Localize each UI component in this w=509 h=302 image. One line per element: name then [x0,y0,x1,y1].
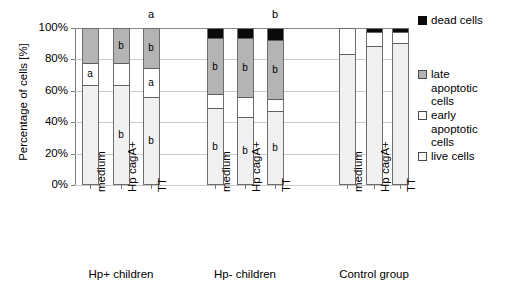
bar-segment-late [83,29,98,63]
legend-item-live[interactable]: live cells [418,150,474,164]
bar-segment-early [114,63,129,85]
x-tick-label-3: medium [220,151,232,192]
x-tick-label-2: TT [156,178,168,192]
legend-swatch-late-icon [418,70,427,79]
y-tick-label-20: 20% [32,148,68,160]
y-axis-title: Percentage of cells [%] [17,17,29,187]
legend-label-live: live cells [431,150,474,164]
x-tick-mark-6 [347,185,348,189]
x-tick-label-7: Hp cagA+ [379,141,391,192]
bar-segment-early [208,94,223,108]
group-label-2: Control group [319,268,429,280]
legend-label-early: earlyapoptoticcells [431,109,478,150]
segment-annotation: b [114,130,129,140]
legend-swatch-dead-icon [418,16,427,25]
x-tick-label-8: TT [405,178,417,192]
x-tick-mark-3 [215,185,216,189]
bar-segment-early [238,97,253,117]
y-tick-label-0: 0% [32,179,68,191]
segment-annotation: b [144,43,159,53]
segment-annotation: b [144,136,159,146]
legend-swatch-live-icon [418,152,427,161]
bar-segment-late: b [268,40,283,99]
bar-2-tt[interactable]: bab [143,28,160,185]
bar-segment-live: b [268,111,283,184]
legend-item-dead[interactable]: dead cells [418,14,483,28]
bar-segment-dead [208,29,223,38]
x-tick-label-1: Hp cagA+ [126,141,138,192]
bar-segment-late: b [238,38,253,97]
segment-annotation: b [208,142,223,152]
segment-annotation: b [208,62,223,72]
x-tick-mark-0 [90,185,91,189]
bar-segment-live: b [144,97,159,184]
bar-top-annotation-2: a [143,8,160,20]
bar-segment-early [268,99,283,111]
bar-segment-late: b [114,29,129,63]
x-tick-mark-8 [400,185,401,189]
legend-label-late: lateapoptoticcells [431,68,478,109]
legend-item-late[interactable]: lateapoptoticcells [418,68,478,109]
bar-segment-early [340,29,355,54]
bar-segment-early: a [83,63,98,85]
bar-5-tt[interactable]: bb [267,28,284,185]
x-tick-mark-1 [121,185,122,189]
y-tick-label-80: 80% [32,53,68,65]
y-tick-label-100: 100% [32,22,68,34]
bar-segment-late: b [144,29,159,68]
x-tick-mark-7 [374,185,375,189]
group-label-1: Hp- children [190,268,300,280]
x-tick-mark-5 [275,185,276,189]
bar-top-annotation-5: b [267,8,284,20]
bar-8-tt[interactable] [392,28,409,185]
y-tick-label-40: 40% [32,116,68,128]
x-tick-label-5: TT [280,178,292,192]
legend-swatch-early-icon [418,111,427,120]
segment-annotation: b [268,143,283,153]
legend-label-dead: dead cells [431,14,483,28]
x-tick-label-0: medium [95,151,107,192]
bar-segment-dead [268,29,283,40]
bar-segment-early [393,32,408,43]
group-label-0: Hp+ children [66,268,176,280]
legend-item-early[interactable]: earlyapoptoticcells [418,109,478,150]
bar-segment-live [393,43,408,184]
bar-segment-dead [238,29,253,38]
bar-segment-early: a [144,68,159,97]
x-tick-label-4: Hp cagA+ [250,141,262,192]
chart-container: Percentage of cells [%] 100%80%60%40%20%… [0,0,509,302]
segment-annotation: a [144,78,159,88]
bar-segment-early [367,32,382,46]
x-tick-mark-2 [151,185,152,189]
segment-annotation: b [238,63,253,73]
segment-annotation: b [268,65,283,75]
x-tick-mark-4 [245,185,246,189]
segment-annotation: a [83,69,98,79]
y-tick-label-60: 60% [32,85,68,97]
bar-segment-late: b [208,38,223,94]
segment-annotation: b [114,41,129,51]
x-tick-label-6: medium [352,151,364,192]
